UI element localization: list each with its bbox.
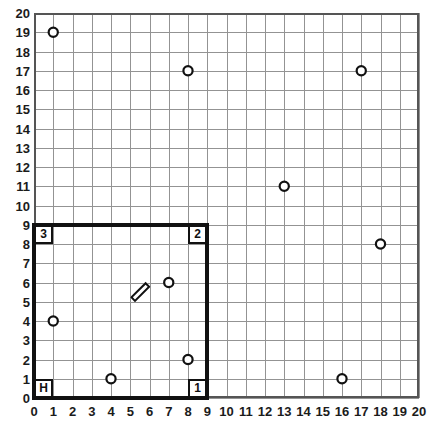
y-tick-0: 0 xyxy=(23,392,30,405)
x-tick-19: 19 xyxy=(393,405,407,418)
plot-area: 32H1 xyxy=(34,13,419,398)
corner-marker-1: 1 xyxy=(188,379,207,398)
x-tick-5: 5 xyxy=(127,405,134,418)
x-tick-18: 18 xyxy=(373,405,387,418)
obstacle-marker xyxy=(376,239,385,248)
x-tick-0: 0 xyxy=(30,405,37,418)
y-tick-11: 11 xyxy=(16,180,30,193)
boundary-rectangle xyxy=(34,225,207,398)
y-tick-20: 20 xyxy=(16,7,30,20)
y-tick-2: 2 xyxy=(23,353,30,366)
x-tick-10: 10 xyxy=(219,405,233,418)
grid-map-figure: 01234567891011121314151617181920 0123456… xyxy=(0,0,429,433)
y-tick-6: 6 xyxy=(23,276,30,289)
y-tick-14: 14 xyxy=(16,122,30,135)
x-tick-2: 2 xyxy=(69,405,76,418)
x-tick-11: 11 xyxy=(239,405,253,418)
y-tick-13: 13 xyxy=(16,141,30,154)
obstacle-marker xyxy=(106,374,115,383)
x-tick-1: 1 xyxy=(50,405,57,418)
obstacle-marker xyxy=(280,182,289,191)
y-tick-16: 16 xyxy=(16,84,30,97)
y-tick-4: 4 xyxy=(23,315,30,328)
y-tick-8: 8 xyxy=(23,238,30,251)
obstacle-marker xyxy=(183,66,192,75)
obstacle-marker xyxy=(49,28,58,37)
y-tick-1: 1 xyxy=(23,372,30,385)
y-tick-15: 15 xyxy=(16,103,30,116)
obstacle-marker xyxy=(357,66,366,75)
x-tick-15: 15 xyxy=(316,405,330,418)
x-tick-4: 4 xyxy=(107,405,114,418)
obstacle-marker xyxy=(164,278,173,287)
y-tick-17: 17 xyxy=(16,64,30,77)
x-tick-9: 9 xyxy=(204,405,211,418)
x-tick-8: 8 xyxy=(184,405,191,418)
y-tick-9: 9 xyxy=(23,218,30,231)
y-tick-10: 10 xyxy=(16,199,30,212)
y-tick-12: 12 xyxy=(16,161,30,174)
x-tick-17: 17 xyxy=(354,405,368,418)
corner-marker-2: 2 xyxy=(188,225,207,244)
corner-marker-3: 3 xyxy=(34,225,53,244)
x-tick-20: 20 xyxy=(412,405,426,418)
x-tick-14: 14 xyxy=(296,405,310,418)
y-tick-7: 7 xyxy=(23,257,30,270)
grid-canvas xyxy=(34,13,419,398)
x-tick-13: 13 xyxy=(277,405,291,418)
obstacle-marker xyxy=(49,316,58,325)
corner-marker-h: H xyxy=(34,379,53,398)
obstacle-marker xyxy=(183,355,192,364)
x-tick-7: 7 xyxy=(165,405,172,418)
x-tick-16: 16 xyxy=(335,405,349,418)
y-tick-18: 18 xyxy=(16,45,30,58)
x-tick-6: 6 xyxy=(146,405,153,418)
y-tick-19: 19 xyxy=(16,26,30,39)
x-tick-12: 12 xyxy=(258,405,272,418)
y-tick-3: 3 xyxy=(23,334,30,347)
obstacle-marker xyxy=(337,374,346,383)
y-tick-5: 5 xyxy=(23,295,30,308)
x-tick-3: 3 xyxy=(88,405,95,418)
